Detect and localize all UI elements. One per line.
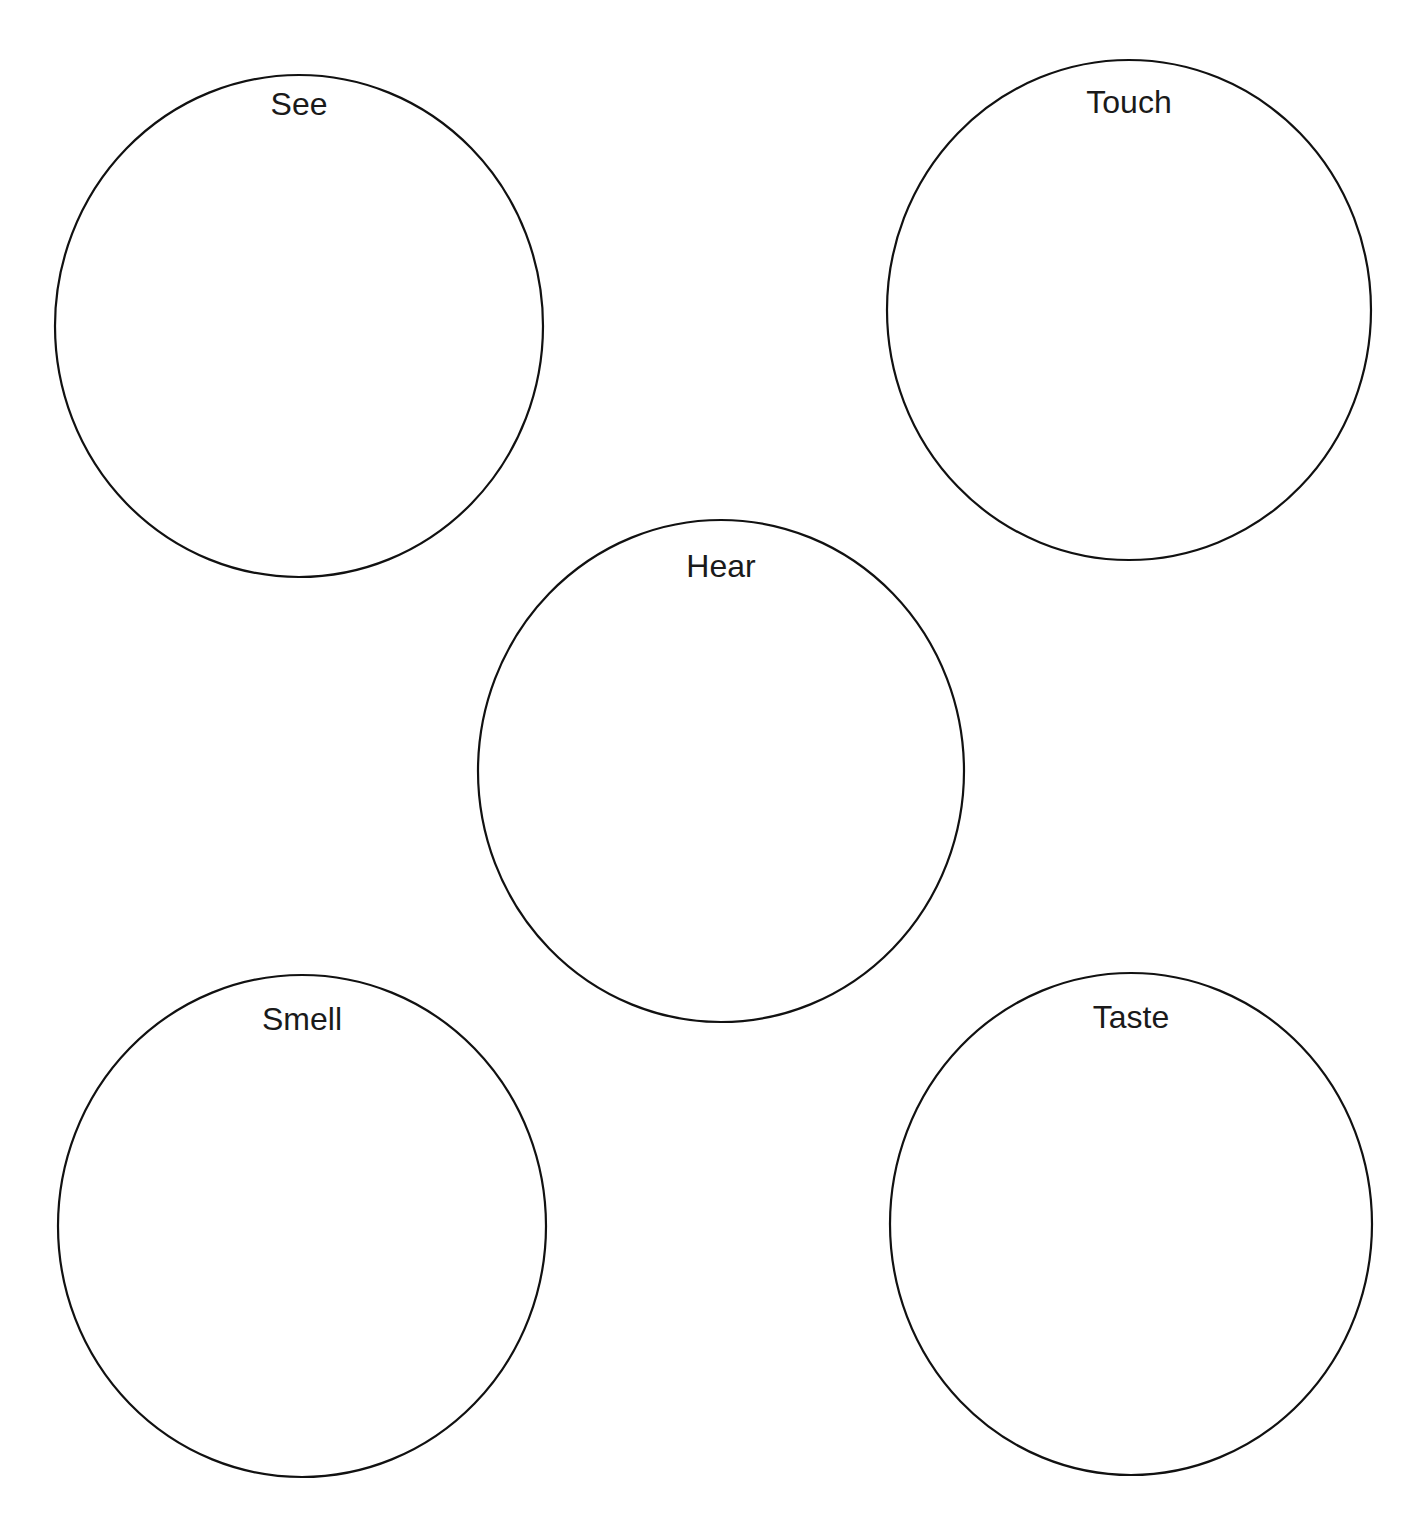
- circle-touch: [887, 60, 1371, 560]
- circle-see: [55, 75, 543, 577]
- circle-smell: [58, 975, 546, 1477]
- label-smell: Smell: [262, 1003, 342, 1035]
- label-taste: Taste: [1093, 1001, 1169, 1033]
- label-touch: Touch: [1086, 86, 1171, 118]
- circles-canvas: [0, 0, 1421, 1530]
- circle-hear: [478, 520, 964, 1022]
- circle-taste: [890, 973, 1372, 1475]
- label-see: See: [271, 88, 328, 120]
- label-hear: Hear: [686, 550, 755, 582]
- five-senses-diagram: SeeTouchHearSmellTaste: [0, 0, 1421, 1530]
